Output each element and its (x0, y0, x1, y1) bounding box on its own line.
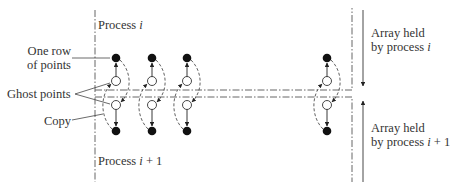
interior-point-bottom (148, 127, 157, 136)
array-i-line2: by process (371, 40, 427, 54)
array-i-plus-1-label: Array held by process i + 1 (371, 121, 450, 149)
copy-arc-down (331, 60, 340, 102)
process-i-var: i (139, 18, 142, 32)
point-column (174, 54, 200, 136)
ghost-point-lower (148, 101, 157, 110)
copy-arc-up (103, 84, 112, 129)
copy-leader (72, 114, 103, 120)
interior-point-bottom (323, 127, 332, 136)
copy-arc-down (156, 60, 165, 102)
copy-arc-up (314, 84, 323, 129)
interior-point-top (183, 54, 192, 63)
ghost-point-upper (183, 77, 192, 86)
ghost-point-lower (183, 101, 192, 110)
point-column (139, 54, 165, 136)
copy-arc-down (191, 60, 200, 102)
process-i-text: Process (98, 18, 139, 32)
lower-array-boundary (95, 97, 352, 182)
process-i1-suffix: + 1 (143, 154, 163, 168)
process-i-label: Process i (98, 18, 143, 32)
interior-point-bottom (183, 127, 192, 136)
array-i1-suffix: + 1 (431, 135, 450, 149)
one-row-line1: One row (23, 44, 71, 58)
one-row-line2: of points (23, 58, 71, 72)
array-i1-line1: Array held (371, 121, 450, 135)
ghost-point-lower (112, 101, 121, 110)
copy-arc-up (139, 84, 148, 129)
interior-point-top (112, 54, 121, 63)
one-row-label: One row of points (23, 44, 71, 72)
point-columns (103, 54, 340, 136)
point-column (103, 54, 129, 136)
interior-point-top (323, 54, 332, 63)
array-i-label: Array held by process i (371, 26, 431, 54)
ghost-point-upper (323, 77, 332, 86)
interior-point-top (148, 54, 157, 63)
copy-arc-up (174, 84, 183, 129)
array-i-line1: Array held (371, 26, 431, 40)
ghost-points-label: Ghost points (7, 87, 71, 101)
ghost-leader-upper (75, 83, 110, 94)
array-i1-line2: by process (371, 135, 427, 149)
process-i-plus-1-label: Process i + 1 (98, 154, 162, 168)
ghost-point-lower (323, 101, 332, 110)
array-i-var: i (427, 40, 430, 54)
copy-label: Copy (44, 114, 71, 128)
interior-point-bottom (112, 127, 121, 136)
ghost-point-upper (112, 77, 121, 86)
ghost-point-upper (148, 77, 157, 86)
point-column (314, 54, 340, 136)
copy-arc-down (120, 60, 129, 102)
process-i1-text: Process (98, 154, 139, 168)
